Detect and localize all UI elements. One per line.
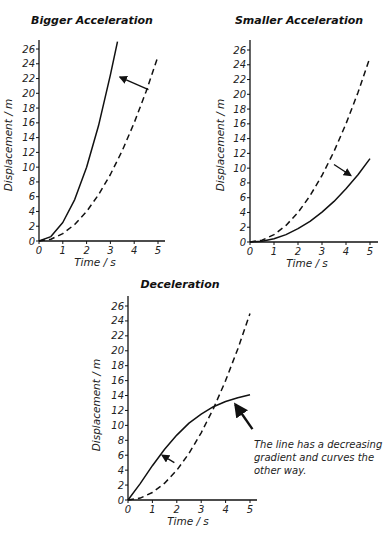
y-tick-label: 24	[233, 59, 246, 70]
x-tick-label: 2	[295, 246, 301, 257]
arrow-icon	[235, 404, 252, 429]
y-tick-label: 24	[111, 315, 124, 326]
y-tick-label: 2	[29, 221, 35, 232]
chart-canvas: Bigger Acceleration 02468101214161820222…	[0, 0, 391, 544]
x-tick-label: 3	[198, 504, 204, 515]
y-tick-label: 4	[240, 207, 246, 218]
y-tick-label: 24	[22, 58, 35, 69]
reference-curve	[128, 314, 250, 501]
x-tick-label: 1	[149, 504, 155, 515]
y-tick-label: 4	[118, 465, 124, 476]
x-tick-label: 2	[174, 504, 180, 515]
y-tick-label: 18	[111, 360, 124, 371]
x-tick-label: 0	[36, 245, 42, 256]
x-tick-label: 4	[131, 245, 137, 256]
x-tick-label: 2	[83, 245, 89, 256]
y-tick-label: 22	[111, 330, 124, 341]
x-tick-label: 3	[107, 245, 113, 256]
y-tick-label: 6	[29, 191, 35, 202]
x-tick-label: 1	[60, 245, 66, 256]
reference-curve	[39, 56, 158, 241]
x-axis-label: Time / s	[286, 257, 328, 269]
y-tick-label: 14	[233, 133, 246, 144]
chart-bigger-acceleration: Bigger Acceleration 02468101214161820222…	[2, 14, 165, 268]
reference-curve	[250, 57, 370, 242]
chart-deceleration: Deceleration 024681012141618202224260123…	[90, 278, 385, 527]
x-tick-label: 4	[222, 504, 228, 515]
arrow-icon	[162, 455, 174, 462]
y-tick-label: 12	[22, 147, 35, 158]
y-tick-label: 0	[240, 237, 246, 248]
x-tick-label: 1	[271, 246, 277, 257]
x-tick-label: 5	[155, 245, 161, 256]
y-tick-label: 2	[118, 480, 124, 491]
y-tick-label: 0	[29, 236, 35, 247]
x-axis-label: Time / s	[167, 515, 209, 527]
y-tick-label: 18	[233, 104, 246, 115]
y-tick-label: 22	[233, 74, 246, 85]
x-tick-label: 5	[247, 504, 253, 515]
y-axis-label: Displacement / m	[2, 99, 14, 192]
chart-title: Bigger Acceleration	[31, 14, 153, 27]
x-tick-label: 5	[367, 246, 373, 257]
y-axis-label: Displacement / m	[90, 359, 102, 452]
x-axis-label: Time / s	[74, 256, 116, 268]
y-tick-label: 2	[240, 222, 246, 233]
chart-title: Deceleration	[140, 278, 219, 291]
motion-curve	[39, 42, 118, 241]
y-tick-label: 22	[22, 73, 35, 84]
axes: 02468101214161820222426012345	[111, 296, 257, 515]
y-tick-label: 16	[22, 117, 35, 128]
arrow-icon	[334, 164, 351, 175]
y-tick-label: 26	[111, 301, 124, 312]
y-tick-label: 20	[22, 88, 35, 99]
y-tick-label: 10	[22, 162, 35, 173]
motion-curve	[250, 159, 370, 242]
y-tick-label: 10	[111, 420, 124, 431]
axes: 02468101214161820222426012345	[233, 40, 378, 257]
y-tick-label: 6	[240, 192, 246, 203]
y-tick-label: 26	[233, 45, 246, 56]
y-tick-label: 4	[29, 206, 35, 217]
y-tick-label: 8	[240, 177, 246, 188]
y-tick-label: 12	[233, 148, 246, 159]
x-tick-label: 0	[247, 246, 253, 257]
y-tick-label: 20	[111, 345, 124, 356]
y-tick-label: 18	[22, 103, 35, 114]
y-tick-label: 20	[233, 89, 246, 100]
y-tick-label: 8	[118, 435, 124, 446]
y-tick-label: 10	[233, 163, 246, 174]
axes: 02468101214161820222426012345	[22, 40, 165, 256]
y-axis-label: Displacement / m	[214, 99, 226, 192]
y-tick-label: 14	[22, 132, 35, 143]
y-tick-label: 6	[118, 450, 124, 461]
y-tick-label: 16	[233, 118, 246, 129]
y-tick-label: 14	[111, 390, 124, 401]
y-tick-label: 8	[29, 176, 35, 187]
x-tick-label: 4	[343, 246, 349, 257]
x-tick-label: 0	[125, 504, 131, 515]
motion-curve	[128, 395, 250, 500]
y-tick-label: 0	[118, 495, 124, 506]
arrow-icon	[120, 77, 149, 90]
chart-title: Smaller Acceleration	[235, 14, 363, 27]
x-tick-label: 3	[319, 246, 325, 257]
chart-smaller-acceleration: Smaller Acceleration 0246810121416182022…	[214, 14, 378, 269]
annotation-note: The line has a decreasing gradient and c…	[254, 439, 385, 476]
y-tick-label: 16	[111, 375, 124, 386]
y-tick-label: 12	[111, 405, 124, 416]
y-tick-label: 26	[22, 44, 35, 55]
